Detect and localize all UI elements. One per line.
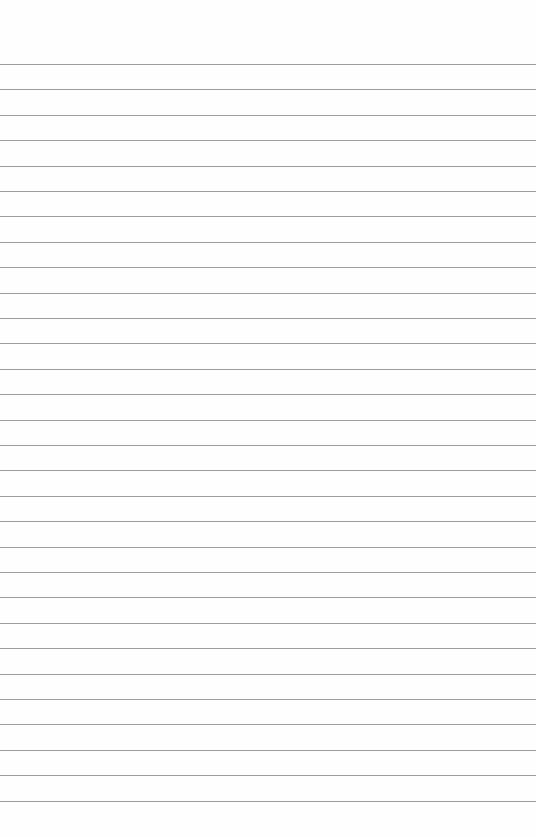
ruled-line (0, 699, 536, 700)
ruled-line (0, 216, 536, 217)
ruled-line (0, 369, 536, 370)
ruled-line (0, 521, 536, 522)
ruled-line (0, 597, 536, 598)
ruled-line (0, 394, 536, 395)
ruled-line (0, 547, 536, 548)
ruled-line (0, 166, 536, 167)
ruled-line (0, 267, 536, 268)
ruled-line (0, 318, 536, 319)
ruled-line (0, 89, 536, 90)
ruled-line (0, 801, 536, 802)
ruled-line (0, 470, 536, 471)
ruled-line (0, 572, 536, 573)
ruled-line (0, 64, 536, 65)
ruled-line (0, 674, 536, 675)
ruled-line (0, 343, 536, 344)
ruled-line (0, 496, 536, 497)
ruled-line (0, 191, 536, 192)
ruled-line (0, 445, 536, 446)
ruled-line (0, 140, 536, 141)
ruled-line (0, 115, 536, 116)
ruled-line (0, 648, 536, 649)
ruled-line (0, 242, 536, 243)
ruled-line (0, 775, 536, 776)
ruled-line (0, 623, 536, 624)
lined-paper (0, 0, 536, 836)
ruled-line (0, 724, 536, 725)
ruled-line (0, 293, 536, 294)
ruled-line (0, 750, 536, 751)
ruled-line (0, 420, 536, 421)
